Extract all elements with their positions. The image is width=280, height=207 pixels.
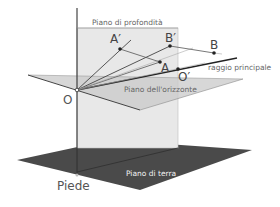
label-ground-plane: Piano di terra	[126, 170, 176, 178]
label-a: A	[161, 62, 169, 74]
label-origin: O	[63, 94, 72, 106]
perspective-diagram: Piano di profondità A′ B′ B A O′ raggio …	[0, 0, 280, 207]
label-o-prime: O′	[178, 71, 190, 83]
label-a-prime: A′	[110, 33, 121, 45]
label-principal-ray: raggio principale	[208, 64, 271, 72]
label-b: B	[210, 39, 218, 51]
point-o	[75, 88, 79, 92]
label-foot: Piede	[57, 180, 90, 192]
label-horizon-plane: Piano dell'orizzonte	[124, 86, 197, 94]
label-b-prime: B′	[165, 32, 176, 44]
point-a-prime	[118, 47, 122, 51]
point-foot	[76, 174, 79, 177]
label-depth-plane: Piano di profondità	[92, 19, 163, 27]
